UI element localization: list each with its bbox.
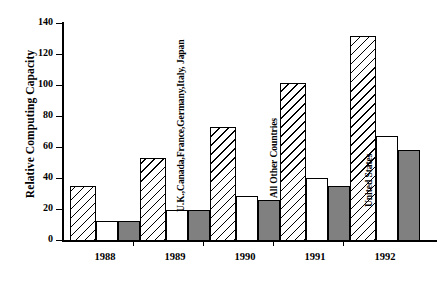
x-axis-label-1988: 1988 — [70, 251, 140, 262]
bar-1989-united-states — [140, 158, 166, 241]
x-axis-label-1989: 1989 — [140, 251, 210, 262]
bar-1992-united-states — [350, 36, 376, 241]
bar-1988-g7-others — [96, 221, 118, 241]
x-axis-label-1991: 1991 — [280, 251, 350, 262]
bar-1991-g7-others — [306, 178, 328, 241]
bar-1988-united-states — [70, 186, 96, 241]
bar-chart: Relative Computing Capacity 140 120 100 … — [0, 0, 441, 282]
bar-1992-all-other-countries — [398, 150, 420, 241]
bar-1989-all-other-countries — [188, 210, 210, 241]
bar-1990-all-other-countries — [258, 200, 280, 241]
bar-1989-g7-others — [166, 210, 188, 241]
annotation-all-other-countries: All Other Countries — [268, 118, 279, 198]
bar-1990-united-states — [210, 127, 236, 241]
x-axis-label-1992: 1992 — [350, 251, 420, 262]
x-axis-label-1990: 1990 — [210, 251, 280, 262]
annotation-g7-countries: U.K.,Canada,France,Germany,Italy, Japan — [175, 39, 186, 212]
bars-layer — [0, 0, 441, 241]
bar-1992-g7-others — [376, 136, 398, 241]
bar-1988-all-other-countries — [118, 221, 140, 241]
bar-1991-all-other-countries — [328, 186, 350, 241]
bar-1991-united-states — [280, 83, 306, 241]
annotation-united-states: United States — [363, 154, 374, 207]
bar-1990-g7-others — [236, 196, 258, 241]
